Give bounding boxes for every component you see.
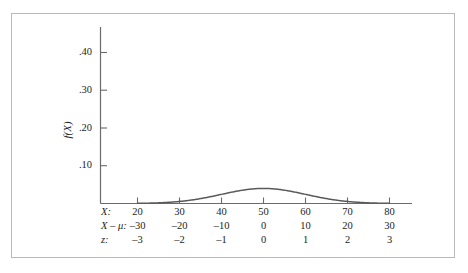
cell-z-3: 0 — [247, 234, 281, 245]
cell-x-4: 60 — [289, 206, 323, 217]
y-axis-title-text: f(X) — [55, 105, 79, 155]
cell-x-2: 40 — [205, 206, 239, 217]
y-axis-tick-label: .10 — [62, 159, 92, 170]
y-axis-title: f(X) — [55, 105, 79, 155]
cell-dev-1: –20 — [163, 220, 197, 231]
table-row: X: 20 30 40 50 60 70 80 — [0, 206, 468, 219]
y-axis-tick-label: .40 — [62, 46, 92, 57]
cell-dev-2: –10 — [205, 220, 239, 231]
row-label-x: X: — [101, 206, 111, 217]
cell-z-0: –3 — [121, 234, 155, 245]
cell-z-5: 2 — [331, 234, 365, 245]
cell-z-6: 3 — [373, 234, 407, 245]
table-row: X – μ: –30 –20 –10 0 10 20 30 — [0, 220, 468, 233]
cell-z-2: –1 — [205, 234, 239, 245]
cell-z-1: –2 — [163, 234, 197, 245]
cell-x-5: 70 — [331, 206, 365, 217]
cell-x-1: 30 — [163, 206, 197, 217]
cell-dev-4: 10 — [289, 220, 323, 231]
y-axis-tick-label: .30 — [62, 84, 92, 95]
cell-x-0: 20 — [121, 206, 155, 217]
cell-x-3: 50 — [247, 206, 281, 217]
cell-dev-6: 30 — [373, 220, 407, 231]
table-row: z: –3 –2 –1 0 1 2 3 — [0, 234, 468, 247]
row-label-z: z: — [101, 234, 109, 245]
cell-z-4: 1 — [289, 234, 323, 245]
cell-x-6: 80 — [373, 206, 407, 217]
cell-dev-3: 0 — [247, 220, 281, 231]
normal-distribution-chart: .40 .30 .20 .10 f(X) X: 20 30 40 50 60 7… — [0, 0, 468, 273]
cell-dev-5: 20 — [331, 220, 365, 231]
cell-dev-0: –30 — [121, 220, 155, 231]
